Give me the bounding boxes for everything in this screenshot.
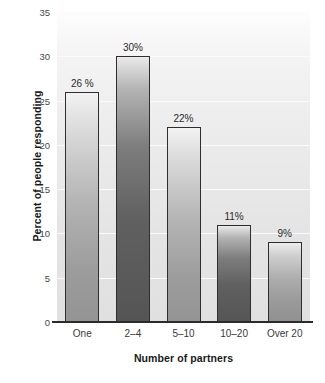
bar [217,225,251,322]
gridline [57,56,310,57]
y-axis-tick-label: 15 [24,184,50,195]
y-axis-tick-label: 30 [24,51,50,62]
x-axis-tick-label: One [73,328,92,339]
y-axis-tick-label: 35 [24,7,50,18]
x-axis-title: Number of partners [57,352,310,364]
bar [116,56,150,322]
x-axis-tick-label: Over 20 [267,328,303,339]
bar-value-label: 11% [224,211,243,222]
x-axis-tick-label: 2–4 [125,328,142,339]
bar-value-label: 22% [173,113,193,124]
x-axis-tick-label: 10–20 [220,328,248,339]
x-axis-tick-label: 5–10 [172,328,194,339]
y-axis-tick-label: 25 [24,95,50,106]
plot-area [57,12,310,322]
x-axis-line [52,321,313,323]
bar-value-label: 26 % [71,78,94,89]
bar-value-label: 30% [123,42,143,53]
y-axis-tick-label: 20 [24,139,50,150]
y-axis-tick-label: 10 [24,228,50,239]
bar-chart-figure: Percent of people responding 05101520253… [0,0,325,383]
bar-value-label: 9% [277,228,291,239]
bar [65,92,99,322]
bar [167,127,201,322]
y-axis-tick-label: 5 [24,272,50,283]
y-axis-tick-labels: 05101520253035 [24,0,50,383]
bar [268,242,302,322]
gridline [57,12,310,13]
y-axis-tick-label: 0 [24,317,50,328]
